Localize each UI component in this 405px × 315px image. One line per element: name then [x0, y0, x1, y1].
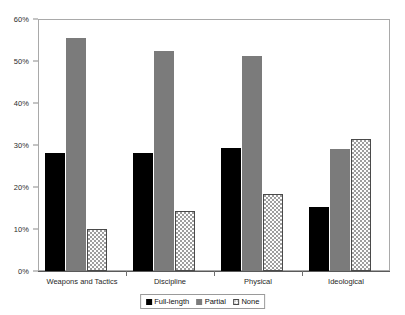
bar-partial [242, 56, 262, 271]
bar-partial [330, 149, 350, 271]
legend-label: Full-length [154, 297, 189, 306]
bar-none [175, 211, 195, 271]
x-axis-tick-mark [126, 271, 127, 276]
bar-full-length [45, 153, 65, 271]
x-axis-category-label: Weapons and Tactics [46, 277, 117, 286]
bar-group [126, 19, 214, 271]
y-axis-tick-label: 20% [14, 183, 29, 192]
bar-none [351, 139, 371, 271]
y-axis-tick-label: 40% [14, 99, 29, 108]
legend-item[interactable]: Partial [196, 297, 226, 306]
legend-label: Partial [205, 297, 226, 306]
y-axis-tick-label: 60% [14, 15, 29, 24]
legend-swatch-icon [233, 299, 239, 305]
legend-label: None [241, 297, 259, 306]
legend-swatch-icon [146, 299, 152, 305]
y-axis-tick-label: 0% [18, 267, 29, 276]
y-axis: 0%10%20%30%40%50%60% [0, 0, 38, 290]
bar-full-length [309, 207, 329, 271]
legend-item[interactable]: None [233, 297, 259, 306]
bars-layer [38, 19, 390, 271]
bar-full-length [221, 148, 241, 271]
x-axis: Weapons and TacticsDisciplinePhysicalIde… [38, 277, 390, 293]
bar-none [263, 194, 283, 271]
bar-group [302, 19, 390, 271]
bar-group [38, 19, 126, 271]
x-axis-category-label: Physical [244, 277, 272, 286]
bar-none [87, 229, 107, 271]
legend: Full-lengthPartialNone [140, 294, 266, 309]
x-axis-category-label: Discipline [154, 277, 186, 286]
x-axis-tick-mark [214, 271, 215, 276]
bar-full-length [133, 153, 153, 271]
y-axis-tick-label: 50% [14, 57, 29, 66]
y-axis-tick-label: 30% [14, 141, 29, 150]
bar-partial [66, 38, 86, 271]
x-axis-tick-mark [302, 271, 303, 276]
bar-partial [154, 51, 174, 271]
bar-chart: 0%10%20%30%40%50%60% Weapons and Tactics… [0, 0, 405, 315]
bar-group [214, 19, 302, 271]
legend-swatch-icon [196, 299, 202, 305]
legend-item[interactable]: Full-length [146, 297, 190, 306]
x-axis-category-label: Ideological [328, 277, 364, 286]
y-axis-tick-label: 10% [14, 225, 29, 234]
